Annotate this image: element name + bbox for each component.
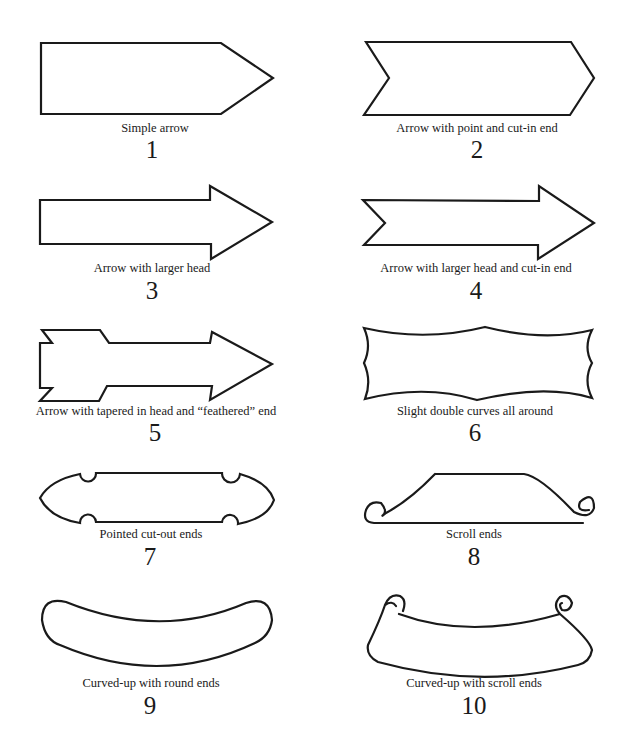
arrow-tapered-feathered-shape: [40, 330, 272, 401]
number-2: 2: [471, 137, 484, 162]
number-7: 7: [144, 544, 157, 569]
number-6: 6: [469, 420, 482, 445]
curved-round-banner-shape: [42, 601, 272, 666]
caption-2: Arrow with point and cut-in end: [396, 122, 557, 135]
arrow-larger-head-cut-in-shape: [363, 186, 594, 259]
number-5: 5: [149, 420, 162, 445]
number-9: 9: [144, 693, 157, 718]
number-4: 4: [470, 278, 483, 303]
double-curve-banner-shape: [364, 327, 592, 400]
arrow-larger-head-shape: [40, 186, 272, 259]
arrow-point-cut-in-shape: [364, 42, 594, 115]
shapes-canvas: [0, 0, 634, 737]
caption-1: Simple arrow: [121, 122, 189, 135]
caption-7: Pointed cut-out ends: [100, 528, 203, 541]
number-10: 10: [462, 693, 487, 718]
caption-3: Arrow with larger head: [94, 262, 211, 275]
caption-10: Curved-up with scroll ends: [406, 677, 542, 690]
simple-arrow-shape: [41, 43, 273, 114]
number-3: 3: [146, 278, 159, 303]
number-1: 1: [146, 137, 159, 162]
caption-8: Scroll ends: [446, 528, 502, 541]
caption-9: Curved-up with round ends: [82, 677, 219, 690]
scroll-end-banner-shape: [365, 474, 594, 523]
curved-scroll-banner-shape: [368, 595, 592, 676]
caption-6: Slight double curves all around: [397, 405, 553, 418]
caption-5: Arrow with tapered in head and “feathere…: [36, 405, 277, 418]
number-8: 8: [468, 544, 481, 569]
pointed-cutout-banner-shape: [40, 473, 274, 524]
caption-4: Arrow with larger head and cut-in end: [380, 262, 571, 275]
